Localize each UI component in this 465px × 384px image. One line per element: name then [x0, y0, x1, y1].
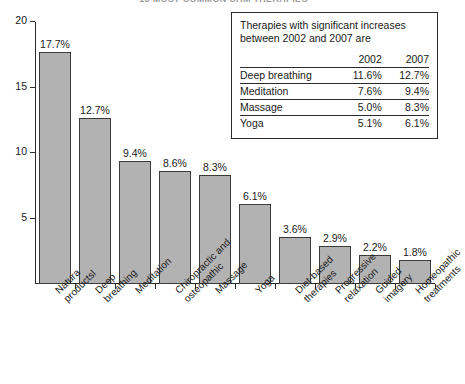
bar-value-label: 17.7%: [40, 39, 70, 50]
y-axis-tick-label: 10: [15, 146, 27, 156]
legend-cell-therapy: Yoga: [240, 115, 335, 131]
y-axis-line: [35, 22, 36, 284]
y-axis-tick: 5: [5, 214, 35, 224]
legend-note-box: Therapies with significant increases bet…: [231, 12, 438, 139]
legend-cell-y2002: 5.1%: [335, 115, 382, 131]
y-axis-tick: 10: [5, 148, 35, 158]
y-axis-tick-label: 20: [15, 15, 27, 25]
y-axis-tick: 15: [5, 83, 35, 93]
x-axis-category-labels: NaturaproductslDeepbreathingMeditationCh…: [35, 288, 447, 384]
y-axis-tick-mark: [30, 87, 35, 88]
bar-value-label: 2.2%: [363, 242, 387, 253]
y-axis-tick-label: 15: [15, 81, 27, 91]
y-axis-tick-mark: [30, 21, 35, 22]
bar-value-label: 3.6%: [283, 224, 307, 235]
bar-value-label: 6.1%: [243, 191, 267, 202]
legend-cell-y2002: 5.0%: [335, 99, 382, 115]
legend-cell-therapy: Meditation: [240, 83, 335, 99]
legend-heading: Therapies with significant increases bet…: [240, 19, 429, 44]
y-axis-tick-mark: [30, 152, 35, 153]
legend-cell-y2007: 12.7%: [382, 67, 429, 83]
y-axis-tick-label: 5: [21, 212, 27, 222]
legend-table-row: Yoga5.1%6.1%: [240, 115, 429, 131]
legend-cell-y2002: 7.6%: [335, 83, 382, 99]
chart-title: 10 MOST COMMON CAM THERAPIES: [0, 0, 447, 2]
bar-value-label: 9.4%: [123, 148, 147, 159]
legend-cell-therapy: Massage: [240, 99, 335, 115]
bar-value-label: 1.8%: [403, 247, 427, 258]
bar-value-label: 2.9%: [323, 233, 347, 244]
legend-cell-y2007: 9.4%: [382, 83, 429, 99]
bar[interactable]: [79, 118, 112, 284]
legend-table-row: Meditation7.6%9.4%: [240, 83, 429, 99]
y-axis-tick-mark: [30, 218, 35, 219]
y-axis-tick: 20: [5, 17, 35, 27]
bar-value-label: 8.6%: [163, 158, 187, 169]
legend-table-row: Deep breathing11.6%12.7%: [240, 67, 429, 83]
legend-table-row: Massage5.0%8.3%: [240, 99, 429, 115]
bar-group[interactable]: 17.7%: [39, 52, 72, 284]
bar-group[interactable]: 12.7%: [79, 118, 112, 284]
bar-value-label: 8.3%: [203, 162, 227, 173]
bar-value-label: 12.7%: [80, 105, 110, 116]
legend-col-2002: 2002: [335, 51, 382, 67]
legend-table-header-row: 2002 2007: [240, 51, 429, 67]
legend-cell-therapy: Deep breathing: [240, 67, 335, 83]
legend-col-2007: 2007: [382, 51, 429, 67]
legend-cell-y2002: 11.6%: [335, 67, 382, 83]
bar[interactable]: [39, 52, 72, 284]
legend-cell-y2007: 8.3%: [382, 99, 429, 115]
legend-col-therapy: [240, 51, 335, 67]
legend-cell-y2007: 6.1%: [382, 115, 429, 131]
legend-table: 2002 2007 Deep breathing11.6%12.7%Medita…: [240, 51, 429, 131]
